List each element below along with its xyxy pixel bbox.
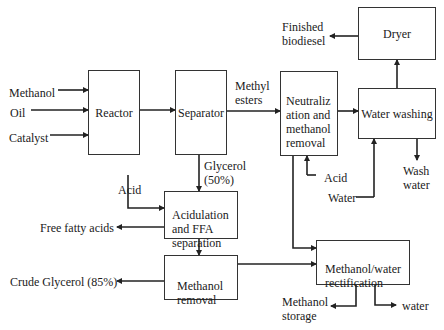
water-output-label: water: [402, 299, 429, 313]
wash-water-label: Wash water: [403, 164, 430, 192]
methanol-removal-box: Methanol removal: [164, 255, 238, 300]
neutralization-label: Neutraliz ation and methanol removal: [286, 94, 331, 150]
dryer-label: Dryer: [383, 27, 411, 41]
methanol-storage-label: Methanol storage: [282, 295, 328, 323]
neutralization-box: Neutraliz ation and methanol removal: [280, 71, 338, 156]
separator-box: Separator: [175, 70, 227, 155]
water-washing-box: Water washing: [358, 88, 436, 139]
free-fatty-acids-label: Free fatty acids: [40, 221, 114, 235]
finished-biodiesel-label: Finished biodiesel: [282, 20, 325, 48]
acidulation-box: Acidulation and FFA separation: [164, 191, 238, 239]
methyl-esters-label: Methyl esters: [235, 79, 270, 107]
water-input-label: Water: [328, 191, 356, 205]
glycerol-label: Glycerol (50%): [204, 159, 246, 187]
acidulation-label: Acidulation and FFA separation: [172, 208, 229, 250]
reactor-box: Reactor: [88, 70, 140, 155]
acid-input-left-label: Acid: [118, 183, 141, 197]
rectification-box: Methanol/water rectification: [316, 240, 410, 285]
dryer-box: Dryer: [358, 7, 436, 60]
reactor-label: Reactor: [95, 106, 132, 120]
separator-label: Separator: [178, 106, 224, 120]
oil-input-label: Oil: [10, 106, 25, 120]
acid-input-right-label: Acid: [324, 171, 347, 185]
water-washing-label: Water washing: [361, 107, 432, 121]
crude-glycerol-label: Crude Glycerol (85%): [10, 275, 117, 289]
methanol-removal-label: Methanol removal: [177, 279, 223, 307]
catalyst-input-label: Catalyst: [9, 131, 48, 145]
methanol-input-label: Methanol: [9, 86, 55, 100]
